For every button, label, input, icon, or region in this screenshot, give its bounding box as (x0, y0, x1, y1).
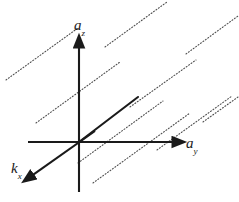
dotted-line (186, 16, 238, 54)
figure-canvas (0, 0, 239, 202)
axes-group (28, 46, 174, 192)
z-axis-label: az (74, 18, 85, 36)
dotted-line (203, 97, 238, 122)
y-axis-label: ay (186, 136, 198, 154)
x-axis-label-subscript: x (18, 171, 22, 181)
y-axis-label-subscript: y (194, 146, 198, 156)
dotted-lattice-planes (6, 2, 238, 183)
crystal-axes-figure: az ay kx (0, 0, 239, 202)
y-axis-label-base: a (186, 135, 194, 151)
solid-vector-ray (79, 97, 138, 142)
dotted-line (130, 60, 196, 107)
x-axis-label: kx (11, 161, 22, 179)
dotted-line (105, 2, 167, 47)
x-axis-label-base: k (11, 160, 18, 176)
lattice-vector-line (79, 97, 138, 142)
z-axis-label-base: a (74, 17, 82, 33)
dotted-line (6, 28, 78, 80)
dotted-line (93, 113, 190, 183)
z-axis-label-subscript: z (82, 28, 86, 38)
